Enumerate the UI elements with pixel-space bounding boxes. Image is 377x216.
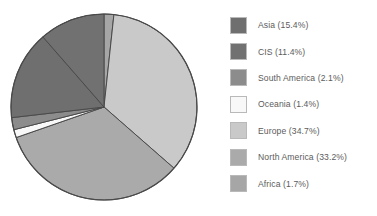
legend-label-cis: CIS (11.4%) [258, 47, 305, 57]
legend-swatch-south-america [230, 69, 247, 86]
legend-swatch-asia [230, 17, 247, 34]
legend-label-europe: Europe (34.7%) [258, 126, 320, 136]
legend-swatch-north-america [230, 149, 247, 166]
legend-item-north-america[interactable]: North America (33.2%) [230, 144, 377, 170]
legend-swatch-africa [230, 175, 247, 192]
legend-swatch-cis [230, 43, 247, 60]
legend-label-oceania: Oceania (1.4%) [258, 99, 319, 109]
pie-slice-group [11, 14, 197, 200]
legend-item-europe[interactable]: Europe (34.7%) [230, 118, 377, 144]
legend-label-south-america: South America (2.1%) [258, 73, 344, 83]
legend-item-cis[interactable]: CIS (11.4%) [230, 38, 377, 64]
pie-plot-area [0, 0, 215, 216]
legend-label-north-america: North America (33.2%) [258, 152, 347, 162]
legend-label-asia: Asia (15.4%) [258, 20, 308, 30]
legend-item-asia[interactable]: Asia (15.4%) [230, 12, 377, 38]
legend-swatch-oceania [230, 96, 247, 113]
legend-item-africa[interactable]: Africa (1.7%) [230, 170, 377, 196]
pie-svg [0, 0, 215, 216]
legend-swatch-europe [230, 122, 247, 139]
pie-chart-figure: Asia (15.4%) CIS (11.4%) South America (… [0, 0, 377, 216]
legend-label-africa: Africa (1.7%) [258, 179, 309, 189]
legend-item-oceania[interactable]: Oceania (1.4%) [230, 91, 377, 117]
chart-legend: Asia (15.4%) CIS (11.4%) South America (… [230, 12, 377, 208]
legend-item-south-america[interactable]: South America (2.1%) [230, 65, 377, 91]
